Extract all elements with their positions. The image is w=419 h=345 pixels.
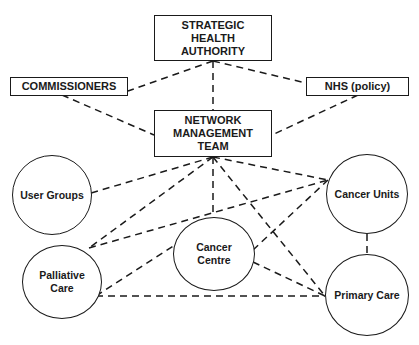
node-label: NHS (policy) xyxy=(325,80,390,93)
commissioners-node: COMMISSIONERS xyxy=(10,77,128,96)
edge-nmt-user-groups xyxy=(91,157,213,193)
node-label: STRATEGIC HEALTH AUTHORITY xyxy=(181,19,245,58)
user-groups-node: User Groups xyxy=(12,155,92,235)
edge-sha-commissioners xyxy=(128,61,213,91)
node-label: NETWORK MANAGEMENT TEAM xyxy=(173,114,253,153)
palliative-care-node: Palliative Care xyxy=(22,245,102,319)
primary-care-node: Primary Care xyxy=(325,254,409,336)
node-label: Primary Care xyxy=(334,289,399,302)
network-management-team-node: NETWORK MANAGEMENT TEAM xyxy=(154,110,272,157)
strategic-health-authority-node: STRATEGIC HEALTH AUTHORITY xyxy=(154,15,272,61)
node-label: Cancer Units xyxy=(335,188,400,201)
node-label: COMMISSIONERS xyxy=(22,80,117,93)
edge-palliative-cancer-centre xyxy=(96,243,178,296)
node-label: Cancer Centre xyxy=(196,241,232,267)
edge-sha-nhs xyxy=(213,61,306,83)
nhs-policy-node: NHS (policy) xyxy=(306,77,409,96)
edge-commissioners-nmt xyxy=(62,95,154,135)
edge-cancer-centre-primary-care xyxy=(253,262,325,296)
node-label: User Groups xyxy=(20,189,84,202)
edge-nhs-nmt xyxy=(272,95,358,135)
node-label: Palliative Care xyxy=(39,269,85,295)
cancer-units-node: Cancer Units xyxy=(326,154,408,234)
cancer-centre-node: Cancer Centre xyxy=(173,217,255,291)
edge-nmt-cancer-units xyxy=(213,157,328,180)
